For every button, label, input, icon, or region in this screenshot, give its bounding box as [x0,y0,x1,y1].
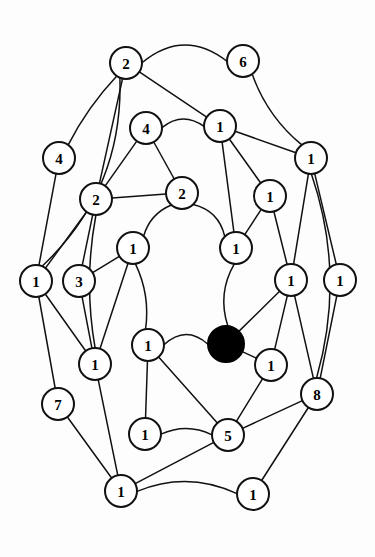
graph-edge [146,361,148,418]
graph-edge [294,174,309,264]
graph-edge [262,407,309,480]
node-label: 1 [336,273,344,289]
node-label: 1 [141,427,149,443]
node-label: 5 [224,428,232,444]
graph-edge [99,79,122,184]
graph-edge [229,139,260,183]
node-label: 1 [249,487,257,503]
graph-edge [295,296,314,379]
graph-node-highlighted[interactable] [208,326,244,362]
node-label: 1 [287,273,295,289]
graph-node[interactable]: 1 [129,418,161,450]
graph-edge [112,194,166,198]
node-label: 4 [142,121,150,137]
graph-edge [239,291,280,331]
node-label: 6 [239,54,247,70]
graph-node[interactable]: 8 [301,378,333,410]
graph-edge [243,401,303,429]
node-label: 1 [129,241,137,257]
graph-node[interactable]: 1 [254,180,286,212]
node-label: 2 [178,186,186,202]
graph-node[interactable]: 6 [227,45,259,77]
node-label: 8 [313,387,321,403]
graph-node[interactable]: 1 [204,110,236,142]
graph-node[interactable]: 1 [295,142,327,174]
graph-node[interactable]: 1 [237,478,269,510]
graph-edge [315,174,337,265]
graph-edge [154,142,175,179]
graph-edge [275,296,288,350]
graph-node[interactable]: 1 [220,232,252,264]
graph-edge [222,142,234,232]
graph-edge [142,45,227,63]
graph-edge [162,119,204,128]
node-label: 1 [117,484,125,500]
graph-edge [98,380,118,476]
node-label: 1 [32,274,40,290]
node-label: 2 [92,192,100,208]
graph-edge [93,256,120,272]
graph-edge [45,294,85,351]
graph-edge [159,357,218,423]
node-label: 1 [266,189,274,205]
graph-node[interactable]: 1 [20,265,52,297]
node-layer: 264114221111311111871511 [20,45,356,510]
node-label: 1 [91,357,99,373]
graph-edge [224,264,235,326]
graph-edge [39,174,56,266]
node-label: 3 [75,274,83,290]
graph-canvas: 264114221111311111871511 [0,0,375,557]
graph-node[interactable]: 5 [212,419,244,451]
graph-edge [193,204,225,236]
graph-edge [245,209,261,234]
node-circle[interactable] [208,326,244,362]
graph-node[interactable]: 4 [130,112,162,144]
graph-node[interactable]: 3 [63,265,95,297]
graph-node[interactable]: 1 [132,329,164,361]
graph-edge [105,141,137,186]
graph-edge [135,264,146,329]
node-label: 1 [267,358,275,374]
graph-figure: 264114221111311111871511 [0,0,375,557]
node-label: 1 [216,119,224,135]
graph-edge [139,72,206,117]
graph-edge [144,205,172,236]
graph-node[interactable]: 2 [80,183,112,215]
graph-edge [100,263,128,349]
graph-edge [252,74,302,145]
graph-edge [67,417,111,478]
graph-edge [161,428,212,434]
graph-node[interactable]: 7 [42,388,74,420]
graph-edge [82,215,93,266]
graph-node[interactable]: 4 [43,142,75,174]
graph-edge [235,131,296,152]
graph-edge [137,481,237,493]
graph-node[interactable]: 1 [324,264,356,296]
node-label: 1 [232,241,240,257]
graph-node[interactable]: 2 [166,177,198,209]
graph-node[interactable]: 1 [255,349,287,381]
graph-edge [236,379,262,422]
graph-edge [242,352,256,359]
graph-node[interactable]: 1 [117,232,149,264]
graph-edge [274,212,287,265]
graph-node[interactable]: 1 [79,348,111,380]
node-label: 1 [144,338,152,354]
graph-node[interactable]: 1 [105,475,137,507]
node-label: 2 [122,56,130,72]
node-label: 1 [307,151,315,167]
graph-edge [164,335,208,345]
graph-edge [39,297,55,389]
graph-node[interactable]: 1 [275,264,307,296]
node-label: 4 [55,151,63,167]
graph-node[interactable]: 2 [110,47,142,79]
node-label: 7 [54,397,62,413]
